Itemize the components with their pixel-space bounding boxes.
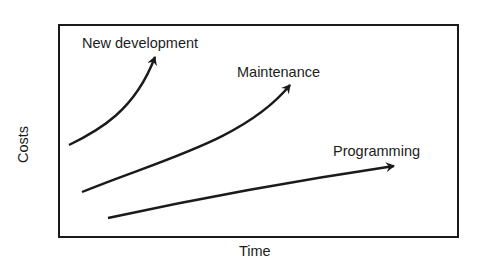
programming-label: Programming (333, 143, 420, 159)
maintenance-curve (82, 85, 290, 192)
maintenance-label: Maintenance (237, 64, 320, 80)
programming-curve (108, 166, 394, 218)
cost-trend-diagram (0, 0, 484, 275)
plot-frame (59, 25, 458, 237)
x-axis-label: Time (239, 243, 271, 259)
new-development-curve (69, 57, 155, 145)
new-development-label: New development (82, 35, 198, 51)
y-axis-label: Costs (15, 126, 31, 163)
